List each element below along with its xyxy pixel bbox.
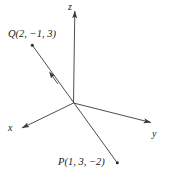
x-axis xyxy=(22,103,74,128)
coordinate-axes-figure: z y x Q(2, −1, 3) P(1, 3, −2) xyxy=(0,0,170,180)
y-axis xyxy=(74,103,152,123)
x-axis-label: x xyxy=(8,123,12,133)
point-q-marker xyxy=(31,44,34,47)
point-p-marker xyxy=(116,161,119,164)
segment-pq xyxy=(33,46,118,163)
figure-canvas xyxy=(0,0,170,180)
y-axis-label: y xyxy=(152,129,156,139)
point-q-label: Q(2, −1, 3) xyxy=(8,29,56,40)
point-p-label: P(1, 3, −2) xyxy=(58,157,105,168)
z-axis-label: z xyxy=(68,2,72,12)
z-axis xyxy=(74,11,75,103)
